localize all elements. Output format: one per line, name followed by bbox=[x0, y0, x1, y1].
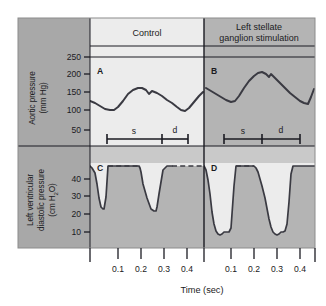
top-tick-100: 100 bbox=[67, 105, 82, 115]
x-tick-stim-0.4: 0.4 bbox=[294, 264, 306, 274]
panel-title-control: Control bbox=[132, 28, 161, 38]
bottom-tick-40: 40 bbox=[71, 174, 81, 184]
x-tick-stim-0.1: 0.1 bbox=[225, 264, 237, 274]
x-tick-control-0.1: 0.1 bbox=[112, 264, 124, 274]
x-tick-control-0.4: 0.4 bbox=[181, 264, 193, 274]
bottom-y-units-post: O) bbox=[48, 183, 57, 192]
top-y-axis-title-line1: Aortic pressure bbox=[28, 71, 37, 125]
x-axis-title: Time (sec) bbox=[180, 285, 223, 295]
bottom-tick-20: 20 bbox=[71, 209, 81, 219]
bottom-y-axis-title-line1: Left ventricular bbox=[26, 174, 35, 226]
x-tick-control-0.3: 0.3 bbox=[158, 264, 170, 274]
bottom-y-units-pre: (cm H bbox=[48, 195, 57, 217]
top-tick-50: 50 bbox=[71, 125, 81, 135]
bottom-y-axis-title-line3: (cm H2O) bbox=[48, 183, 59, 217]
panel-a-diastole-label: d bbox=[173, 125, 178, 135]
x-tick-control-0.2: 0.2 bbox=[135, 264, 147, 274]
figure-svg: s d s d 250 200 150 bbox=[0, 0, 326, 306]
panel-b-systole-label: s bbox=[241, 126, 245, 136]
bottom-y-axis-title-line2: diastolic pressure bbox=[37, 169, 46, 231]
panel-c-trace-group bbox=[90, 163, 204, 248]
x-axis-ticks: 0.1 0.2 0.3 0.4 0.1 0.2 0.3 0.4 bbox=[90, 248, 315, 274]
panel-d-trace-group bbox=[204, 163, 315, 248]
panel-b-diastole-label: d bbox=[279, 125, 284, 135]
panel-letter-d: D bbox=[211, 163, 217, 173]
panel-letter-c: C bbox=[97, 163, 103, 173]
figure-container: s d s d 250 200 150 bbox=[0, 0, 326, 306]
panel-letter-b: B bbox=[211, 66, 217, 76]
panel-letter-a: A bbox=[97, 66, 103, 76]
x-tick-stim-0.3: 0.3 bbox=[271, 264, 283, 274]
bottom-tick-30: 30 bbox=[71, 191, 81, 201]
top-tick-200: 200 bbox=[67, 69, 82, 79]
panel-title-stimulation-line2: ganglion stimulation bbox=[219, 33, 299, 43]
panel-a-systole-label: s bbox=[132, 126, 136, 136]
panel-title-stimulation-line1: Left stellate bbox=[236, 22, 282, 32]
top-y-axis-title-line2: (mm Hg) bbox=[39, 82, 48, 114]
x-tick-stim-0.2: 0.2 bbox=[248, 264, 260, 274]
top-tick-150: 150 bbox=[67, 87, 82, 97]
bottom-tick-10: 10 bbox=[71, 227, 81, 237]
top-tick-250: 250 bbox=[67, 52, 82, 62]
